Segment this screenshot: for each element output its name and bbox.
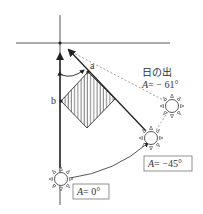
point-a-label: a bbox=[90, 60, 95, 71]
sun-azimuth-shadow-diagram: a b 日の出 A= − 61° A= −45° A= 0° bbox=[0, 0, 203, 214]
sunrise-title-label: 日の出 bbox=[142, 66, 172, 78]
sun45-label: A= −45° bbox=[147, 158, 182, 169]
angle-arc bbox=[62, 70, 84, 76]
sun-path-arc bbox=[70, 143, 148, 178]
sun-connect-dashed-line bbox=[156, 112, 168, 130]
sun-zero-icon bbox=[49, 167, 73, 191]
sunrise-azimuth-value: = − 61° bbox=[148, 79, 178, 90]
hatched-square bbox=[61, 72, 115, 128]
sun0-value: = 0° bbox=[83, 186, 100, 197]
point-b-label: b bbox=[51, 95, 56, 106]
sun45-value: = −45° bbox=[154, 158, 182, 169]
sunrise-azimuth-label: A= − 61° bbox=[141, 79, 178, 90]
origin-point bbox=[59, 42, 62, 45]
sun-minus45-icon bbox=[139, 126, 163, 150]
point-b-marker bbox=[59, 99, 62, 102]
sun0-label: A= 0° bbox=[76, 186, 100, 197]
sun-sunrise-icon bbox=[160, 94, 184, 118]
